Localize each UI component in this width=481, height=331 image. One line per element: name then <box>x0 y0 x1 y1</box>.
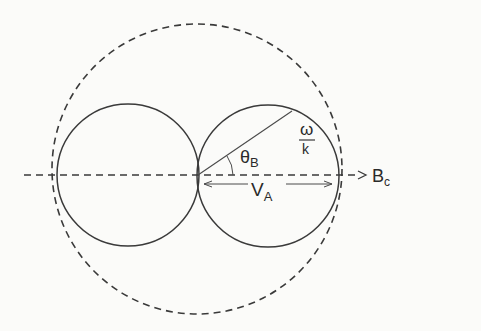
field-label: Bc <box>372 166 390 189</box>
velocity-label: VA <box>251 179 273 204</box>
angle-label: θB <box>240 147 259 170</box>
right-circle <box>197 105 339 247</box>
field-arrowhead-icon <box>358 171 366 179</box>
diagram-svg: Bc θB VA ω k <box>0 0 481 331</box>
phase-velocity-numerator: ω <box>300 120 313 139</box>
phase-velocity-polar-diagram: Bc θB VA ω k <box>0 0 481 331</box>
angle-arc <box>227 156 233 175</box>
phase-velocity-denominator: k <box>302 141 310 157</box>
